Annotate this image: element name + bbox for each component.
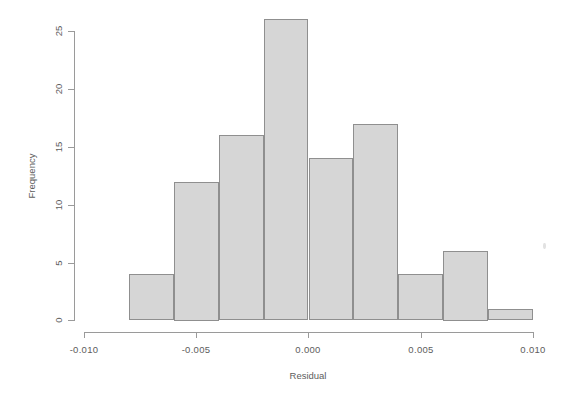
histogram-bar: [398, 274, 443, 320]
y-axis-tick: [68, 31, 74, 32]
histogram-bar: [309, 158, 354, 320]
histogram-chart: 25 20 15 10 5 0 -0.010 -0.005 0.000 0.00…: [0, 0, 579, 397]
y-axis-tick: [68, 205, 74, 206]
x-axis-tick: [533, 332, 534, 338]
y-axis-line: [74, 31, 75, 321]
y-axis-tick: [68, 89, 74, 90]
y-axis-tick-label: 0: [53, 317, 64, 322]
scan-artifact: [543, 243, 546, 249]
x-axis-tick: [196, 332, 197, 338]
y-axis-tick: [68, 320, 74, 321]
y-axis-tick: [68, 147, 74, 148]
histogram-bar: [443, 251, 488, 321]
y-axis-tick: [68, 263, 74, 264]
y-axis-tick-label: 10: [53, 200, 64, 211]
x-axis-tick-label: 0.005: [408, 344, 433, 355]
y-axis-tick-label: 5: [53, 260, 64, 265]
x-axis-tick: [421, 332, 422, 338]
y-axis-tick-label: 15: [53, 142, 64, 153]
x-axis-title: Residual: [290, 370, 327, 381]
histogram-bar: [174, 182, 219, 321]
x-axis-tick-label: -0.010: [70, 344, 99, 355]
histogram-bar: [488, 309, 533, 321]
x-axis-tick-label: 0.000: [295, 344, 320, 355]
plot-area: 25 20 15 10 5 0 -0.010 -0.005 0.000 0.00…: [0, 0, 579, 397]
y-axis-tick-label: 20: [53, 84, 64, 95]
y-axis-tick-label: 25: [53, 26, 64, 37]
x-axis-tick: [308, 332, 309, 338]
histogram-bar: [219, 135, 264, 320]
histogram-bar: [353, 124, 398, 321]
histogram-bar: [264, 19, 309, 320]
x-axis-tick: [84, 332, 85, 338]
x-axis-tick-label: -0.005: [182, 344, 211, 355]
histogram-bar: [129, 274, 174, 320]
x-axis-tick-label: 0.010: [520, 344, 545, 355]
y-axis-title: Frequency: [26, 154, 37, 199]
